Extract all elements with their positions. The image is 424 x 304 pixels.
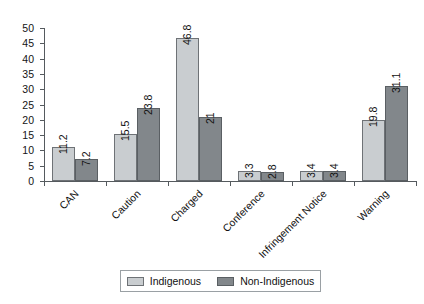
x-axis-tick <box>354 181 355 186</box>
y-axis-tick-label: 35 <box>0 69 34 79</box>
x-axis-category-label: CAN <box>57 188 80 211</box>
y-axis-tick-label: 45 <box>0 38 34 48</box>
bar-value-label: 15.5 <box>120 120 131 140</box>
bar <box>385 86 408 181</box>
chart-legend: Indigenous Non-Indigenous <box>120 270 321 292</box>
y-axis-tick-label: 0 <box>0 176 34 186</box>
y-axis-tick-label: 20 <box>0 115 34 125</box>
bar <box>362 120 385 181</box>
x-axis-tick <box>44 181 45 186</box>
y-axis-tick-label: 25 <box>0 100 34 110</box>
bar-value-label: 3.4 <box>306 163 317 178</box>
y-axis-tick <box>40 43 44 44</box>
y-axis-tick <box>40 28 44 29</box>
y-axis-tick <box>40 105 44 106</box>
bar <box>137 108 160 181</box>
bar-value-label: 21 <box>205 112 216 124</box>
x-axis-category-label: Warning <box>356 188 391 223</box>
y-axis-tick <box>40 89 44 90</box>
bar-value-label: 3.3 <box>244 163 255 178</box>
bar-value-label: 46.8 <box>182 24 193 44</box>
x-axis-tick <box>106 181 107 186</box>
bar-value-label: 31.1 <box>391 72 402 92</box>
bar <box>176 38 199 181</box>
x-axis-category-label: Charged <box>169 188 205 224</box>
y-axis-tick-label: 40 <box>0 54 34 64</box>
x-axis-category-label: Infringement Notice <box>257 188 329 260</box>
y-axis-tick <box>40 166 44 167</box>
legend-label-indigenous: Indigenous <box>150 276 201 287</box>
bar-value-label: 23.8 <box>143 95 154 115</box>
x-axis-category-label: Conference <box>221 188 267 234</box>
y-axis-line <box>44 28 45 182</box>
bar-chart: 05101520253035404550 11.27.215.523.846.8… <box>0 0 424 304</box>
y-axis-tick <box>40 120 44 121</box>
y-axis-tick <box>40 74 44 75</box>
y-axis-tick-label: 30 <box>0 84 34 94</box>
legend-label-non-indigenous: Non-Indigenous <box>240 276 314 287</box>
bar-value-label: 3.4 <box>329 163 340 178</box>
bar-value-label: 19.8 <box>368 107 379 127</box>
legend-swatch-icon-indigenous <box>127 277 144 286</box>
y-axis-tick-label: 10 <box>0 145 34 155</box>
legend-entry-indigenous: Indigenous <box>127 276 201 287</box>
bar-value-label: 7.2 <box>81 151 92 166</box>
y-axis-tick-label: 15 <box>0 130 34 140</box>
x-axis-tick <box>230 181 231 186</box>
bar-value-label: 2.8 <box>267 165 278 180</box>
legend-swatch-icon-non-indigenous <box>217 277 234 286</box>
y-axis-tick <box>40 150 44 151</box>
x-axis-tick <box>416 181 417 186</box>
y-axis-tick-label: 5 <box>0 161 34 171</box>
y-axis-tick <box>40 135 44 136</box>
x-axis-tick <box>292 181 293 186</box>
y-axis-tick-label: 50 <box>0 23 34 33</box>
y-axis-tick <box>40 59 44 60</box>
bar-value-label: 11.2 <box>58 134 69 154</box>
legend-entry-non-indigenous: Non-Indigenous <box>217 276 314 287</box>
x-axis-category-label: Caution <box>109 188 142 221</box>
x-axis-tick <box>168 181 169 186</box>
bar <box>199 117 222 181</box>
plot-area: 05101520253035404550 11.27.215.523.846.8… <box>44 28 416 182</box>
